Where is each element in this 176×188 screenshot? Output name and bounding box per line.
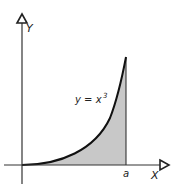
area-under-cubic-diagram: Y X a y = x 3 [0, 0, 176, 188]
shaded-area [22, 57, 126, 165]
curve-label: y = x [74, 94, 102, 105]
upper-limit-label: a [123, 168, 129, 179]
y-axis-label: Y [26, 22, 34, 35]
x-axis-arrow-icon [160, 160, 169, 170]
curve-label-exponent: 3 [103, 92, 107, 100]
x-axis-label: X [150, 169, 159, 182]
